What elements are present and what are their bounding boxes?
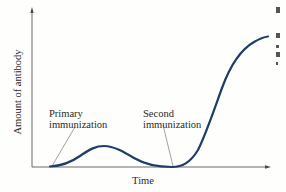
second-label-line2: immunization (143, 119, 202, 130)
x-axis-label: Time (132, 175, 154, 186)
clipped-text-fragment (276, 7, 280, 13)
y-axis-arrow-icon (30, 7, 33, 13)
y-axis-label: Amount of antibody (12, 49, 23, 135)
antibody-response-diagram: Primary immunization Second immunization… (0, 0, 286, 192)
clipped-text-fragment (276, 33, 280, 38)
clipped-text-fragment (276, 62, 278, 65)
clipped-text-fragment (276, 52, 280, 57)
second-label-line1: Second (143, 108, 175, 119)
x-axis-arrow-icon (265, 165, 271, 168)
antibody-curve (50, 37, 268, 168)
primary-label-line2: immunization (49, 119, 108, 130)
primary-label-line1: Primary (49, 108, 84, 119)
clipped-text-fragment (276, 45, 279, 48)
second-leader-line (163, 125, 173, 166)
